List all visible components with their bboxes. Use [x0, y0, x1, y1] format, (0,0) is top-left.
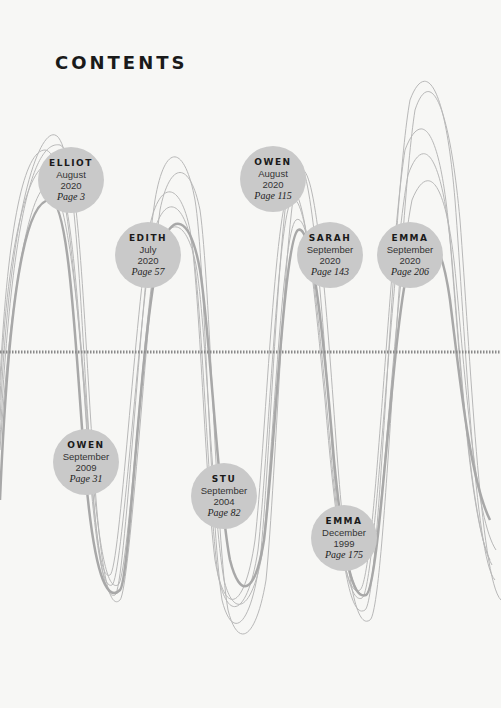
- entry-page: Page 82: [207, 507, 240, 519]
- contents-entry-owen-2009[interactable]: OWEN September 2009 Page 31: [53, 429, 119, 495]
- entry-page: Page 175: [325, 549, 363, 561]
- contents-entry-emma-1999[interactable]: EMMA December 1999 Page 175: [311, 505, 377, 571]
- entry-year: 2020: [60, 180, 81, 191]
- entry-month: September: [387, 244, 433, 255]
- entry-name: OWEN: [254, 157, 291, 168]
- contents-entry-edith[interactable]: EDITH July 2020 Page 57: [115, 222, 181, 288]
- entry-year: 2020: [399, 255, 420, 266]
- entry-month: August: [258, 168, 288, 179]
- entry-year: 2020: [137, 255, 158, 266]
- entry-month: December: [322, 527, 366, 538]
- entry-name: EMMA: [391, 233, 428, 244]
- entry-month: August: [56, 169, 86, 180]
- timeline-waves-diagram: [0, 0, 501, 708]
- entry-page: Page 115: [254, 190, 291, 202]
- contents-entry-owen-2020[interactable]: OWEN August 2020 Page 115: [240, 146, 306, 212]
- contents-entry-emma-2020[interactable]: EMMA September 2020 Page 206: [377, 222, 443, 288]
- contents-entry-stu[interactable]: STU September 2004 Page 82: [191, 463, 257, 529]
- entry-year: 2009: [75, 462, 96, 473]
- contents-entry-sarah[interactable]: SARAH September 2020 Page 143: [297, 222, 363, 288]
- entry-page: Page 31: [69, 473, 102, 485]
- entry-name: EMMA: [325, 516, 362, 527]
- contents-entry-elliot[interactable]: ELLIOT August 2020 Page 3: [38, 147, 104, 213]
- entry-name: OWEN: [67, 440, 104, 451]
- entry-page: Page 206: [391, 266, 429, 278]
- entry-name: ELLIOT: [49, 158, 93, 169]
- entry-year: 2020: [262, 179, 283, 190]
- entry-name: SARAH: [309, 233, 351, 244]
- entry-year: 2020: [319, 255, 340, 266]
- entry-month: July: [140, 244, 157, 255]
- entry-name: STU: [212, 474, 236, 485]
- entry-page: Page 143: [311, 266, 349, 278]
- entry-month: September: [201, 485, 247, 496]
- entry-month: September: [63, 451, 109, 462]
- entry-year: 1999: [333, 538, 354, 549]
- entry-name: EDITH: [129, 233, 167, 244]
- entry-month: September: [307, 244, 353, 255]
- entry-page: Page 3: [57, 191, 85, 203]
- entry-year: 2004: [213, 496, 234, 507]
- entry-page: Page 57: [131, 266, 164, 278]
